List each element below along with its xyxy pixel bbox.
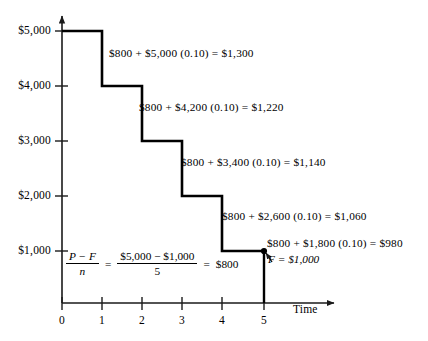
formula-numerator-numeric: $5,000 − $1,000 — [117, 250, 197, 264]
formula-result: $800 — [216, 258, 239, 270]
x-axis-label: Time — [293, 304, 318, 316]
y-tick-label-2000: $2,000 — [4, 190, 51, 202]
annotation-step-1: $800 + $5,000 (0.10) = $1,300 — [109, 48, 254, 59]
depreciation-formula: P − F n = $5,000 − $1,000 5 = $800 — [66, 250, 238, 277]
formula-denominator-numeric: 5 — [152, 264, 164, 277]
x-tick-label-1: 1 — [94, 315, 110, 327]
x-tick-label-4: 4 — [214, 315, 230, 327]
salvage-value-label: F = $1,000 — [268, 253, 319, 265]
annotation-step-2: $800 + $4,200 (0.10) = $1,220 — [139, 102, 284, 113]
x-tick-label-0: 0 — [54, 315, 70, 327]
y-tick-label-4000: $4,000 — [4, 80, 51, 92]
formula-equals-2: = — [202, 258, 210, 270]
x-tick-label-5: 5 — [256, 315, 272, 327]
y-tick-label-5000: $5,000 — [4, 25, 51, 37]
salvage-value-text: F = $1,000 — [268, 253, 319, 265]
formula-denominator-symbolic: n — [77, 264, 89, 277]
formula-fraction-numeric: $5,000 − $1,000 5 — [117, 250, 197, 277]
annotation-step-4: $800 + $2,600 (0.10) = $1,060 — [222, 211, 367, 222]
y-tick-label-3000: $3,000 — [4, 135, 51, 147]
formula-fraction-symbolic: P − F n — [66, 250, 99, 277]
formula-equals-1: = — [104, 258, 112, 270]
annotation-step-3: $800 + $3,400 (0.10) = $1,140 — [181, 157, 326, 168]
depreciation-step-chart: $5,000 $4,000 $3,000 $2,000 $1,000 0 1 2… — [0, 0, 428, 341]
formula-numerator-symbolic: P − F — [66, 250, 99, 264]
x-tick-label-2: 2 — [134, 315, 150, 327]
y-tick-label-1000: $1,000 — [4, 245, 51, 257]
annotation-step-5: $800 + $1,800 (0.10) = $980 — [267, 238, 403, 249]
x-tick-label-3: 3 — [174, 315, 190, 327]
